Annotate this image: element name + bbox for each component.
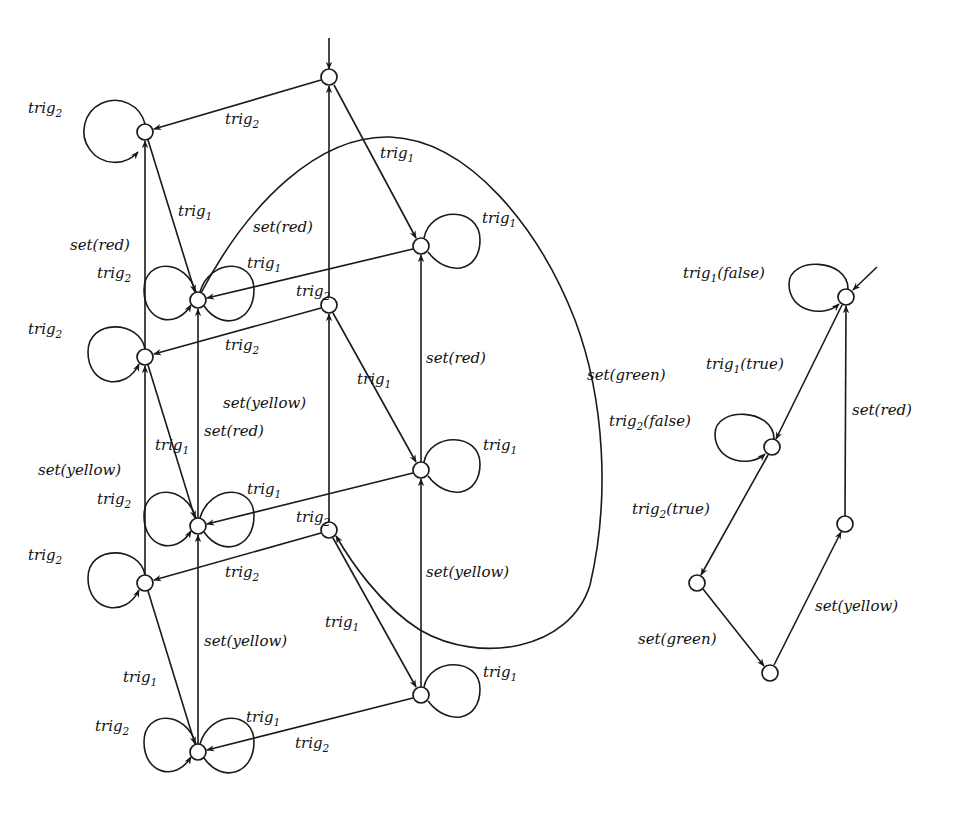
- label-set-green: set(green): [587, 366, 666, 384]
- loop-N4: [424, 440, 480, 493]
- left-automaton-nodes: [137, 69, 429, 760]
- state-node-initial: [321, 69, 337, 85]
- label-trig1: trig1: [483, 663, 517, 683]
- state-node: [413, 238, 429, 254]
- state-node: [689, 575, 705, 591]
- state-node: [413, 462, 429, 478]
- label-trig2: trig2: [28, 546, 63, 566]
- label-trig2: trig2: [296, 508, 331, 528]
- label-set-red: set(red): [426, 349, 486, 367]
- label-trig2: trig2: [295, 734, 330, 754]
- label-trig1: trig1: [123, 668, 157, 688]
- loop-R1: [789, 264, 848, 311]
- label-set-red: set(red): [70, 236, 130, 254]
- loop-A-trig2: [144, 266, 196, 319]
- edge-R5-R1: [845, 306, 846, 516]
- label-trig1: trig1: [247, 480, 281, 500]
- label-set-yellow: set(yellow): [204, 632, 287, 650]
- state-node: [137, 575, 153, 591]
- label-trig2: trig2: [225, 336, 260, 356]
- label-trig2: trig2: [97, 264, 132, 284]
- state-node: [764, 439, 780, 455]
- state-node: [837, 516, 853, 532]
- label-set-yellow: set(yellow): [815, 597, 898, 615]
- loop-D: [88, 553, 145, 608]
- state-node: [413, 687, 429, 703]
- label-set-red: set(red): [852, 401, 912, 419]
- label-trig1: trig1: [246, 708, 280, 728]
- left-automaton-edges: [84, 38, 602, 773]
- loop-N1: [84, 100, 145, 162]
- label-set-red: set(red): [204, 422, 264, 440]
- label-trig2: trig2: [225, 563, 260, 583]
- state-node: [762, 665, 778, 681]
- label-set-red: set(red): [253, 218, 313, 236]
- edge-R2-R3: [701, 455, 768, 575]
- state-node: [190, 744, 206, 760]
- left-automaton-labels: trig2 trig2 trig1 trig1 set(red) trig1 s…: [28, 99, 666, 754]
- loop-C-trig2: [144, 492, 196, 545]
- label-trig1-false: trig1(false): [683, 264, 765, 284]
- loop-R2: [715, 414, 774, 461]
- label-set-yellow: set(yellow): [426, 563, 509, 581]
- state-machine-diagram: trig2 trig2 trig1 trig1 set(red) trig1 s…: [0, 0, 961, 817]
- right-automaton-labels: trig1(false) trig1(true) set(red) trig2(…: [609, 264, 912, 648]
- label-trig1: trig1: [380, 144, 414, 164]
- label-trig2: trig2: [28, 320, 63, 340]
- label-trig2: trig2: [296, 282, 331, 302]
- edge-A-N5-set-green: [201, 137, 602, 648]
- state-node: [137, 349, 153, 365]
- label-trig2-false: trig2(false): [609, 412, 691, 432]
- right-automaton-nodes: [689, 289, 854, 681]
- label-trig1: trig1: [155, 436, 189, 456]
- label-trig2: trig2: [95, 717, 130, 737]
- loop-E-trig2: [144, 718, 196, 771]
- label-set-green: set(green): [638, 630, 717, 648]
- edge-R1-R2: [776, 305, 842, 439]
- label-trig1-true: trig1(true): [706, 355, 784, 375]
- label-trig1: trig1: [482, 209, 516, 229]
- label-trig1: trig1: [247, 254, 281, 274]
- state-node: [137, 124, 153, 140]
- label-trig2: trig2: [28, 99, 63, 119]
- label-trig1: trig1: [178, 202, 212, 222]
- loop-N2: [424, 214, 480, 268]
- label-trig2: trig2: [97, 490, 132, 510]
- label-trig1: trig1: [357, 370, 391, 390]
- loop-N6: [424, 665, 480, 718]
- label-set-yellow: set(yellow): [38, 461, 121, 479]
- label-trig2-true: trig2(true): [632, 500, 710, 520]
- label-set-yellow: set(yellow): [223, 394, 306, 412]
- edge-R3-R4: [703, 589, 764, 666]
- label-trig2: trig2: [225, 110, 260, 130]
- loop-B: [88, 327, 145, 382]
- diagram-canvas: trig2 trig2 trig1 trig1 set(red) trig1 s…: [0, 0, 961, 817]
- label-trig1: trig1: [325, 613, 359, 633]
- state-node-initial: [838, 289, 854, 305]
- label-trig1: trig1: [483, 436, 517, 456]
- state-node: [190, 292, 206, 308]
- initial-arrow-right: [853, 267, 877, 290]
- state-node: [190, 518, 206, 534]
